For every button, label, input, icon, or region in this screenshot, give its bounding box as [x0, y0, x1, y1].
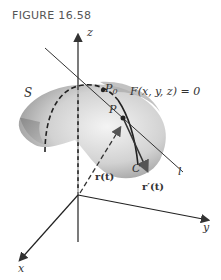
- z-axis-label: z: [86, 26, 93, 39]
- equation-label: F(x, y, z) = 0: [129, 85, 200, 98]
- tangent-vector-label: r′(t): [142, 181, 164, 192]
- position-vector-label: r(t): [95, 171, 114, 182]
- y-axis-label: y: [202, 221, 210, 234]
- diagram: z y x S F(x, y, z) = 0 P0 P C l r(t) r′(…: [0, 0, 221, 280]
- x-axis: [20, 195, 78, 260]
- surface-label: S: [24, 86, 32, 100]
- curve-c-label: C: [132, 162, 141, 175]
- x-axis-label: x: [18, 262, 25, 275]
- point-p: [121, 116, 126, 121]
- line-l-label: l: [178, 165, 182, 178]
- p-label: P: [108, 103, 117, 116]
- y-axis: [78, 195, 208, 220]
